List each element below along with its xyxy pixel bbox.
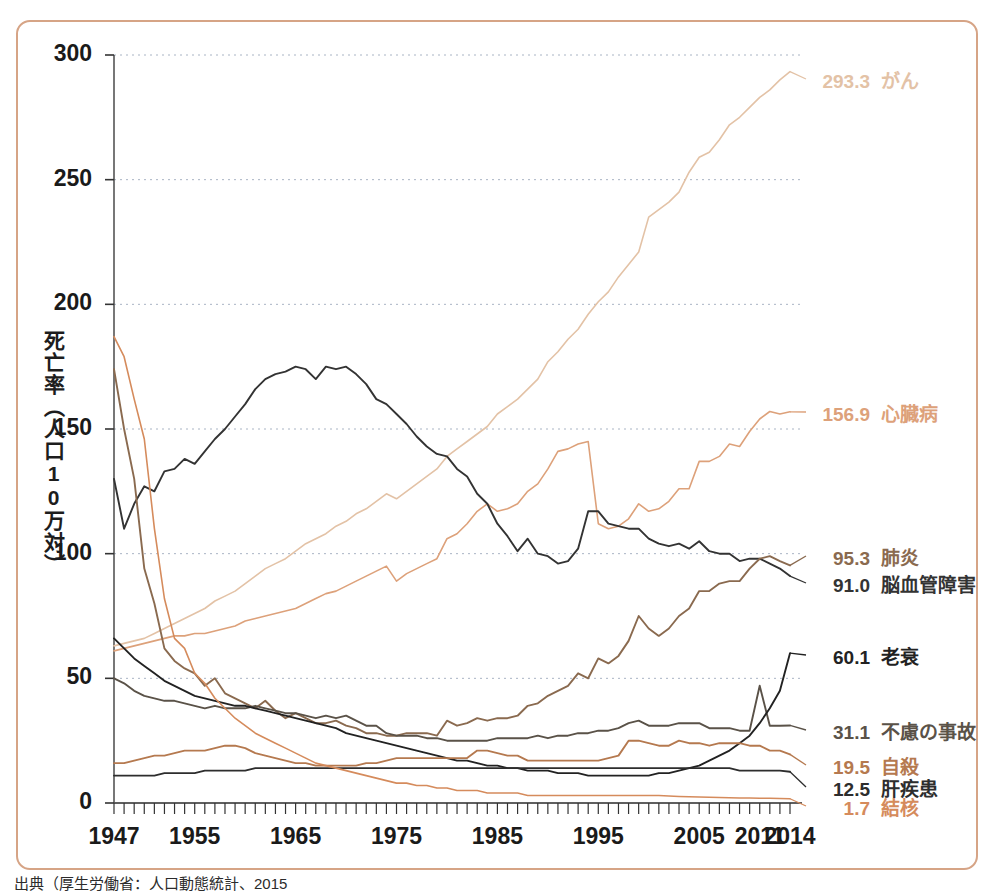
x-tick-label: 1965 [251, 823, 341, 850]
series-label-5: 31.1不慮の事故 [808, 717, 976, 744]
series-value: 95.3 [808, 548, 870, 570]
series-name: がん [881, 66, 919, 93]
x-tick-label: 1985 [452, 823, 542, 850]
series-label-1: 156.9心臓病 [808, 399, 938, 426]
y-tick-label: 0 [22, 788, 92, 815]
series-value: 293.3 [808, 71, 870, 93]
y-tick-label: 50 [22, 663, 92, 690]
x-tick-label: 1947 [69, 823, 159, 850]
series-value: 31.1 [808, 722, 870, 744]
y-tick-label: 300 [22, 40, 92, 67]
source-caption: 出典（厚生労働省：人口動態統計、2015 [14, 872, 287, 893]
x-tick-label: 1995 [553, 823, 643, 850]
y-tick-label: 250 [22, 165, 92, 192]
y-tick-label: 100 [22, 539, 92, 566]
series-name: 肺炎 [881, 543, 919, 570]
series-label-2: 95.3肺炎 [808, 543, 919, 570]
series-name: 心臓病 [881, 399, 938, 426]
series-value: 91.0 [808, 575, 870, 597]
series-value: 60.1 [808, 647, 870, 669]
series-value: 156.9 [808, 404, 870, 426]
series-label-8: 1.7結核 [808, 793, 919, 820]
series-name: 結核 [881, 793, 919, 820]
series-name: 脳血管障害 [881, 570, 976, 597]
x-tick-label: 1975 [352, 823, 442, 850]
series-label-3: 91.0脳血管障害 [808, 570, 976, 597]
y-tick-label: 200 [22, 289, 92, 316]
x-tick-label: 2014 [745, 823, 835, 850]
series-label-0: 293.3がん [808, 66, 919, 93]
x-tick-label: 1955 [150, 823, 240, 850]
series-name: 老衰 [881, 642, 919, 669]
series-name: 不慮の事故 [881, 717, 976, 744]
y-tick-label: 150 [22, 414, 92, 441]
series-value: 1.7 [808, 798, 870, 820]
series-label-4: 60.1老衰 [808, 642, 919, 669]
